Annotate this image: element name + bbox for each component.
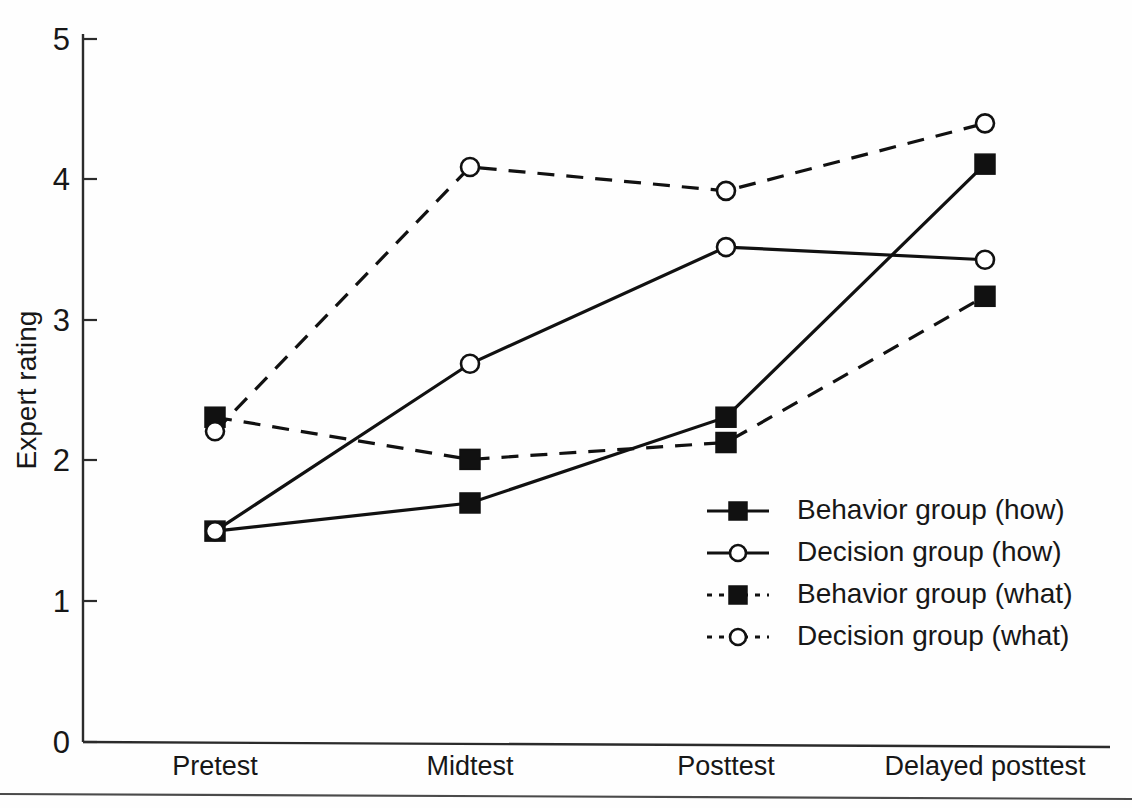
x-tick-label-pretest: Pretest	[172, 751, 258, 781]
legend-item-1[interactable]: Behavior group (how)	[707, 494, 1065, 525]
data-point	[976, 114, 994, 132]
page-rule	[0, 794, 1132, 799]
legend-label-3: Behavior group (what)	[797, 578, 1072, 609]
series-line-3	[215, 296, 985, 459]
series-3	[205, 286, 995, 469]
line-chart: 5 4 3 2 1 0 Expert rating Pretest Midtes…	[0, 0, 1132, 808]
y-tick-label-2: 2	[53, 443, 70, 478]
legend-item-2[interactable]: Decision group (how)	[707, 536, 1062, 567]
chart-figure: 5 4 3 2 1 0 Expert rating Pretest Midtes…	[0, 0, 1132, 808]
y-tick-label-0: 0	[53, 725, 70, 760]
data-point	[460, 493, 480, 513]
x-tick-label-posttest: Posttest	[677, 751, 775, 781]
x-tick-label-delayed-posttest: Delayed posttest	[884, 751, 1086, 781]
data-point	[975, 154, 995, 174]
legend-label-1: Behavior group (how)	[797, 494, 1065, 525]
series-1	[205, 154, 995, 541]
data-point	[461, 158, 479, 176]
data-point	[975, 286, 995, 306]
x-axis-line	[83, 742, 1110, 747]
y-tick-label-4: 4	[53, 162, 70, 197]
data-point	[716, 407, 736, 427]
series-4	[206, 114, 994, 440]
y-tick-label-3: 3	[53, 303, 70, 338]
data-point	[716, 433, 736, 453]
legend-item-4[interactable]: Decision group (what)	[707, 620, 1069, 651]
data-point	[461, 355, 479, 373]
y-tick-label-5: 5	[53, 22, 70, 57]
legend-item-3[interactable]: Behavior group (what)	[707, 578, 1072, 609]
legend-marker-circle	[730, 629, 746, 645]
y-tick-label-1: 1	[53, 584, 70, 619]
series-layer	[205, 114, 995, 541]
data-point	[976, 251, 994, 269]
data-point	[717, 182, 735, 200]
data-point	[206, 522, 224, 540]
x-tick-label-midtest: Midtest	[426, 751, 514, 781]
legend-marker-square	[729, 502, 747, 520]
y-tick-marks	[83, 39, 97, 742]
data-point	[460, 449, 480, 469]
chart-legend: Behavior group (how)Decision group (how)…	[707, 494, 1072, 651]
data-point	[717, 238, 735, 256]
legend-label-2: Decision group (how)	[797, 536, 1062, 567]
legend-label-4: Decision group (what)	[797, 620, 1069, 651]
series-line-2	[215, 247, 985, 531]
y-axis-title: Expert rating	[11, 311, 42, 470]
data-point	[206, 422, 224, 440]
series-line-1	[215, 164, 985, 531]
legend-marker-square	[729, 586, 747, 604]
legend-marker-circle	[730, 545, 746, 561]
